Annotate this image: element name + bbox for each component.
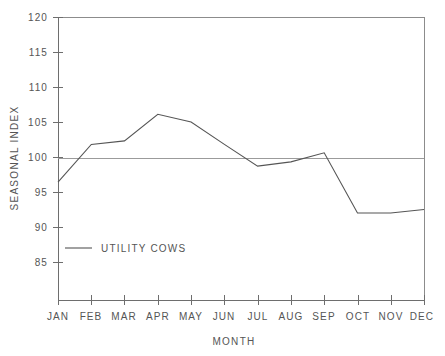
x-tick-label-oct: OCT <box>346 311 370 322</box>
y-tick-label-105: 105 <box>28 117 48 128</box>
chart-legend: UTILITY COWS <box>65 243 186 254</box>
y-tick-label-90: 90 <box>35 222 48 233</box>
x-tick-label-nov: NOV <box>379 311 404 322</box>
x-tick-label-apr: APR <box>146 311 170 322</box>
x-axis-title: MONTH <box>212 336 255 347</box>
y-axis-tick-labels: 120 115 110 105 100 95 90 85 <box>28 12 48 268</box>
x-tick-label-mar: MAR <box>111 311 137 322</box>
legend-label-utility-cows: UTILITY COWS <box>101 243 186 254</box>
series-line-utility-cows <box>58 114 424 213</box>
x-tick-label-jan: JAN <box>47 311 69 322</box>
y-axis-title: SEASONAL INDEX <box>9 105 20 210</box>
x-tick-label-feb: FEB <box>80 311 103 322</box>
chart-canvas: 120 115 110 105 100 95 90 85 SEASONAL IN… <box>0 0 445 356</box>
x-tick-label-aug: AUG <box>279 311 304 322</box>
y-tick-label-115: 115 <box>29 47 48 58</box>
x-tick-label-sep: SEP <box>312 311 335 322</box>
x-tick-label-jun: JUN <box>213 311 236 322</box>
seasonal-index-line-chart: 120 115 110 105 100 95 90 85 SEASONAL IN… <box>0 0 445 356</box>
y-tick-label-100: 100 <box>28 152 48 163</box>
x-axis-tick-labels: JAN FEB MAR APR MAY JUN JUL AUG SEP OCT … <box>47 311 434 322</box>
y-tick-label-85: 85 <box>35 257 48 268</box>
y-tick-label-120: 120 <box>28 12 48 23</box>
y-tick-label-110: 110 <box>29 82 48 93</box>
y-tick-label-95: 95 <box>35 187 48 198</box>
x-tick-label-dec: DEC <box>410 311 434 322</box>
x-tick-label-may: MAY <box>179 311 203 322</box>
x-tick-label-jul: JUL <box>247 311 268 322</box>
